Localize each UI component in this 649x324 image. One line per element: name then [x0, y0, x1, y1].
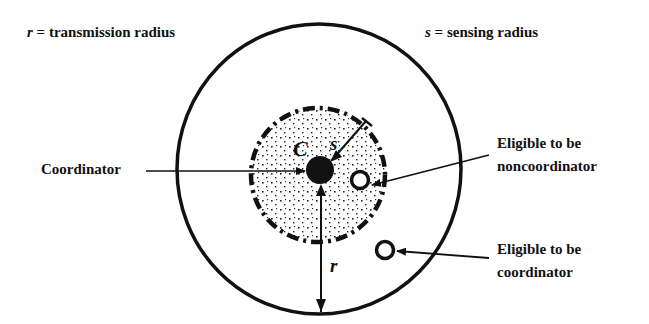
coordinator-node [306, 156, 334, 184]
noncoordinator-pointer-arrow [372, 155, 489, 185]
coordinator-eligible-pointer-arrow [397, 251, 489, 258]
transmission-symbol-r: r [330, 255, 337, 277]
s-legend-text: = sensing radius [431, 24, 538, 40]
r-legend-text: = transmission radius [33, 24, 175, 40]
noncoordinator-eligible-node [352, 172, 369, 189]
legend-transmission-radius: r = transmission radius [27, 23, 175, 41]
coordinator-label: Coordinator [41, 160, 121, 178]
coordinator-eligible-node [377, 242, 394, 259]
sensing-symbol-s: s [330, 133, 337, 155]
center-symbol-c: C [293, 136, 308, 162]
legend-sensing-radius: s = sensing radius [425, 23, 538, 41]
coordinator-eligible-label-line2: coordinator [497, 263, 573, 281]
noncoordinator-label-line2: noncoordinator [497, 157, 597, 175]
noncoordinator-label-line1: Eligible to be [497, 134, 581, 152]
coordinator-eligible-label-line1: Eligible to be [497, 240, 581, 258]
